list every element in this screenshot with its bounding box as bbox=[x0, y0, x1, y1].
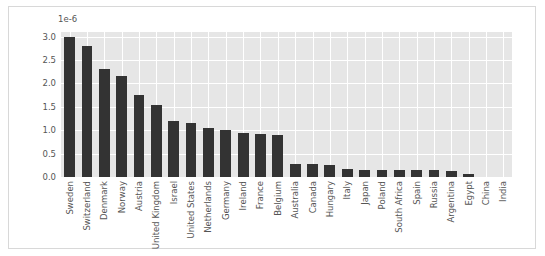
bar bbox=[151, 105, 162, 178]
y-axis-offset-label: 1e-6 bbox=[58, 14, 77, 24]
x-tick-label: United Kingdom bbox=[152, 181, 161, 249]
bar bbox=[307, 164, 318, 177]
bar bbox=[394, 170, 405, 177]
x-tick-label: United States bbox=[187, 181, 196, 239]
bar bbox=[342, 169, 353, 177]
bar bbox=[324, 165, 335, 177]
bar bbox=[238, 133, 249, 177]
bar bbox=[64, 37, 75, 177]
bar bbox=[99, 69, 110, 177]
bar bbox=[481, 177, 492, 178]
y-tick-label: 2.0 bbox=[4, 79, 56, 88]
plot-area bbox=[61, 32, 512, 177]
bar bbox=[186, 123, 197, 177]
bar bbox=[168, 121, 179, 177]
bar bbox=[411, 170, 422, 177]
x-tick-label: Germany bbox=[222, 181, 231, 220]
y-tick-label: 3.0 bbox=[4, 33, 56, 42]
bar bbox=[498, 177, 509, 178]
bar-series bbox=[61, 32, 512, 177]
x-tick-label: Australia bbox=[291, 181, 300, 219]
bar bbox=[377, 170, 388, 177]
bar bbox=[463, 174, 474, 177]
y-tick-label: 2.5 bbox=[4, 56, 56, 65]
bar bbox=[359, 170, 370, 177]
x-tick-label: Netherlands bbox=[204, 181, 213, 233]
x-tick-label: Russia bbox=[430, 181, 439, 208]
x-tick-label: Sweden bbox=[66, 181, 75, 215]
x-tick-label: Norway bbox=[118, 181, 127, 213]
x-tick-label: Israel bbox=[170, 181, 179, 204]
figure: 1e-6 0.00.51.01.52.02.53.0 SwedenSwitzer… bbox=[0, 0, 545, 256]
x-tick-label: Switzerland bbox=[83, 181, 92, 231]
x-tick-label: Poland bbox=[378, 181, 387, 209]
bar bbox=[290, 164, 301, 177]
x-tick-label: Japan bbox=[361, 181, 370, 205]
x-tick-label: India bbox=[499, 181, 508, 202]
x-tick-label: France bbox=[256, 181, 265, 209]
x-tick-label: China bbox=[482, 181, 491, 205]
bar bbox=[134, 95, 145, 177]
x-tick-label: Belgium bbox=[274, 181, 283, 216]
x-tick-label: Spain bbox=[413, 181, 422, 205]
y-tick-label: 0.5 bbox=[4, 150, 56, 159]
bar bbox=[116, 76, 127, 177]
bar bbox=[255, 134, 266, 177]
x-tick-label: Argentina bbox=[447, 181, 456, 222]
bar bbox=[203, 128, 214, 177]
x-tick-label: Italy bbox=[343, 181, 352, 199]
bar bbox=[272, 135, 283, 177]
x-tick-label: Ireland bbox=[239, 181, 248, 210]
y-tick-label: 1.5 bbox=[4, 103, 56, 112]
x-tick-label: Austria bbox=[135, 181, 144, 211]
x-tick-label: Hungary bbox=[326, 181, 335, 217]
bar bbox=[82, 46, 93, 177]
x-axis-tick-labels: SwedenSwitzerlandDenmarkNorwayAustriaUni… bbox=[61, 179, 512, 249]
y-tick-label: 0.0 bbox=[4, 173, 56, 182]
x-tick-label: Canada bbox=[309, 181, 318, 213]
bar bbox=[446, 171, 457, 177]
x-tick-label: Denmark bbox=[100, 181, 109, 220]
y-tick-label: 1.0 bbox=[4, 126, 56, 135]
x-tick-label: South Africa bbox=[395, 181, 404, 233]
bar bbox=[429, 170, 440, 177]
y-axis-tick-labels: 0.00.51.01.52.02.53.0 bbox=[0, 32, 56, 177]
x-tick-label: Egypt bbox=[465, 181, 474, 206]
bar bbox=[220, 130, 231, 177]
